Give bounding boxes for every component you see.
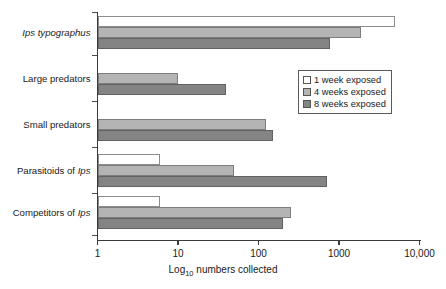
bar-group: Large predators — [98, 62, 446, 95]
x-tick-10,000 — [419, 240, 420, 245]
legend-item: 1 week exposed — [303, 74, 386, 86]
x-tick-100 — [258, 240, 259, 245]
x-tick-1 — [97, 240, 98, 245]
bar — [98, 119, 267, 130]
x-axis-title-rest: numbers collected — [194, 264, 278, 275]
bar-group: Competitors of Ips — [98, 196, 446, 229]
bar — [98, 27, 362, 38]
bar — [98, 207, 291, 218]
bar-group: Ips typographus — [98, 16, 446, 49]
x-tick-1000 — [338, 240, 339, 245]
category-label: Large predators — [23, 74, 91, 84]
y-tick — [92, 193, 97, 194]
y-tick — [92, 101, 97, 102]
bar — [98, 38, 331, 49]
x-tick-label-10: 10 — [172, 248, 183, 259]
light-gray-square-icon — [303, 88, 311, 96]
category-label: Parasitoids of Ips — [17, 166, 91, 176]
y-tick — [92, 147, 97, 148]
x-axis-title-subscript: 10 — [185, 269, 193, 278]
dark-gray-square-icon — [303, 100, 311, 108]
x-tick-label-1000: 1000 — [328, 248, 350, 259]
white-square-icon — [303, 76, 311, 84]
y-tick — [92, 235, 97, 236]
legend-item: 8 weeks exposed — [303, 98, 386, 110]
bar — [98, 165, 235, 176]
bar — [98, 176, 327, 187]
bar-chart: Ips typographusLarge predatorsSmall pred… — [0, 0, 446, 289]
bar — [98, 218, 283, 229]
category-label: Ips typographus — [22, 28, 90, 38]
bar — [98, 154, 161, 165]
y-tick — [92, 55, 97, 56]
category-label: Small predators — [23, 120, 90, 130]
x-axis-title: Log10 numbers collected — [0, 264, 446, 278]
bar-group: Small predators — [98, 108, 446, 141]
legend-label: 4 weeks exposed — [314, 87, 386, 97]
x-axis-title-base: Log — [169, 264, 186, 275]
x-tick-label-100: 100 — [250, 248, 267, 259]
bar-group: Parasitoids of Ips — [98, 154, 446, 187]
bar — [98, 84, 227, 95]
legend-label: 1 week exposed — [314, 75, 381, 85]
x-tick-label-1: 1 — [95, 248, 101, 259]
bar — [98, 130, 273, 141]
legend-label: 8 weeks exposed — [314, 99, 386, 109]
x-tick-label-10,000: 10,000 — [404, 248, 435, 259]
bar — [98, 196, 161, 207]
chart-legend: 1 week exposed4 weeks exposed8 weeks exp… — [298, 70, 392, 114]
legend-item: 4 weeks exposed — [303, 86, 386, 98]
bar — [98, 16, 396, 27]
y-tick — [92, 12, 97, 13]
bar — [98, 73, 179, 84]
x-tick-10 — [177, 240, 178, 245]
category-label: Competitors of Ips — [13, 208, 91, 218]
